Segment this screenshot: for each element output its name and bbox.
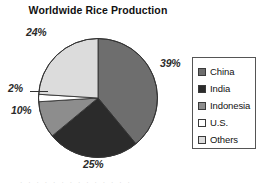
pie-slice-others [39,39,98,99]
slice-label-indonesia: 10% [11,104,31,116]
legend-item-indonesia: Indonesia [198,97,255,114]
pie-graphic [38,38,158,158]
us-leader-line [30,91,48,92]
pie-chart-figure: Worldwide Rice Production 39% 25% 10% 2%… [0,0,269,185]
legend-label-others: Others [210,134,238,145]
legend-item-us: U.S. [198,114,255,131]
slice-label-india: 25% [83,158,103,170]
legend-label-us: U.S. [210,117,228,128]
legend-label-indonesia: Indonesia [210,100,250,111]
legend-label-india: India [210,83,230,94]
legend-swatch-us [198,119,206,127]
legend-label-china: China [210,66,234,77]
legend-item-others: Others [198,131,255,148]
legend-item-china: China [198,63,255,80]
legend-swatch-others [198,136,206,144]
scan-artifact: · · · · · · · · · · · · · · [20,179,250,184]
chart-legend: China India Indonesia U.S. Others [192,57,256,149]
legend-swatch-indonesia [198,102,206,110]
legend-swatch-china [198,68,206,76]
slice-label-china: 39% [160,57,180,69]
legend-item-india: India [198,80,255,97]
slice-label-others: 24% [26,26,46,38]
slice-label-us: 2% [8,82,23,94]
chart-title: Worldwide Rice Production [0,4,196,16]
pie-svg [38,38,158,158]
legend-swatch-india [198,85,206,93]
